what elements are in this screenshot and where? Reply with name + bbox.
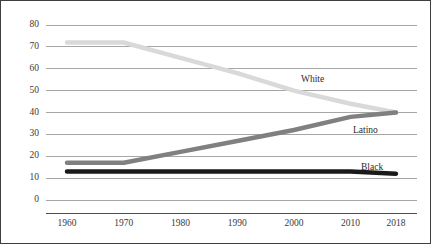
- y-tick-label-50: 50: [9, 85, 39, 95]
- chart-plot-area: [1, 1, 431, 244]
- y-tick-label-40: 40: [9, 107, 39, 117]
- x-tick-label-1980: 1980: [158, 218, 202, 228]
- chart-container: 01020304050607080 1960197019801990200020…: [0, 0, 431, 244]
- y-tick-label-70: 70: [9, 41, 39, 51]
- y-tick-label-20: 20: [9, 150, 39, 160]
- gridlines: [46, 25, 417, 213]
- series-label-latino: Latino: [353, 125, 378, 135]
- y-tick-label-30: 30: [9, 128, 39, 138]
- series-label-white: White: [301, 74, 324, 84]
- x-tick-label-1970: 1970: [102, 218, 146, 228]
- y-tick-label-60: 60: [9, 63, 39, 73]
- series-line-black: [67, 172, 396, 174]
- series-label-black: Black: [361, 162, 383, 172]
- y-tick-label-0: 0: [9, 194, 39, 204]
- x-tick-label-2000: 2000: [272, 218, 316, 228]
- y-tick-label-80: 80: [9, 19, 39, 29]
- x-tick-label-2018: 2018: [374, 218, 418, 228]
- x-tick-label-2010: 2010: [329, 218, 373, 228]
- series-line-white: [67, 43, 396, 113]
- y-tick-label-10: 10: [9, 172, 39, 182]
- series-lines: [67, 43, 396, 174]
- x-tick-label-1960: 1960: [45, 218, 89, 228]
- x-tick-label-1990: 1990: [215, 218, 259, 228]
- series-line-latino: [67, 113, 396, 163]
